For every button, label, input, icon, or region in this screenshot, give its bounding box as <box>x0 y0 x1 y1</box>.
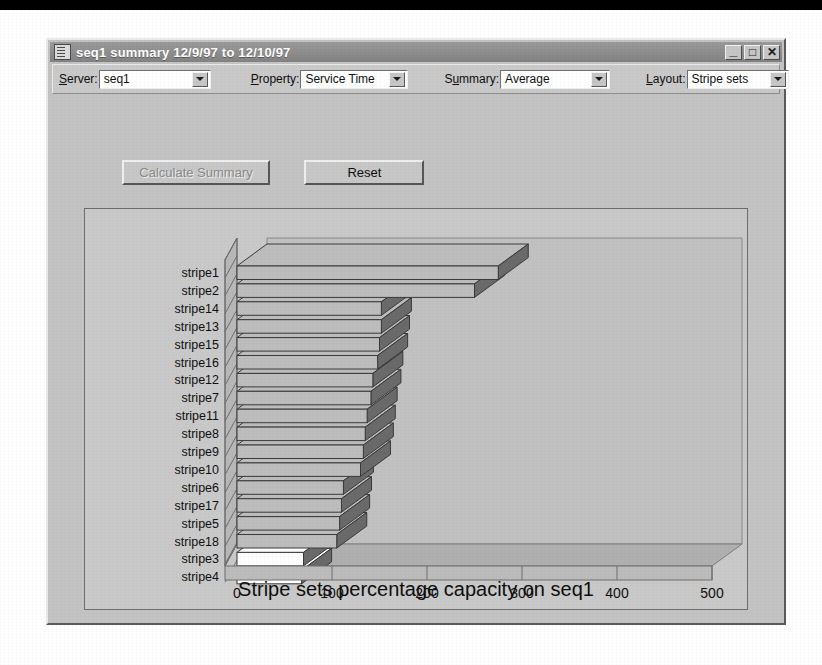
y-axis-tick-label: stripe17 <box>175 499 220 513</box>
y-axis-tick-label: stripe6 <box>181 481 219 495</box>
y-axis-tick-label: stripe9 <box>181 445 219 459</box>
y-axis-tick-label: stripe5 <box>181 517 219 531</box>
layout-label: Layout: <box>646 72 685 86</box>
close-button[interactable]: ✕ <box>763 45 780 60</box>
y-axis-tick-label: stripe2 <box>181 284 219 298</box>
window-controls: _ □ ✕ <box>725 45 780 60</box>
chevron-down-icon[interactable] <box>389 72 405 87</box>
y-axis-tick-label: stripe16 <box>175 356 220 370</box>
chevron-down-icon[interactable] <box>192 72 208 87</box>
property-label: Property: <box>251 72 300 86</box>
scan-border-top <box>0 0 822 10</box>
layout-field-group: Layout: Stripe sets <box>646 65 788 93</box>
y-axis-tick-label: stripe13 <box>175 320 220 334</box>
y-axis-tick-label: stripe18 <box>175 535 220 549</box>
summary-label: Summary: <box>444 72 499 86</box>
document-icon <box>54 44 71 60</box>
chevron-down-icon[interactable] <box>770 72 786 87</box>
y-axis-tick-label: stripe8 <box>181 427 219 441</box>
y-axis-tick-label: stripe7 <box>181 391 219 405</box>
action-button-row: Calculate Summary Reset <box>122 160 424 185</box>
layout-dropdown[interactable]: Stripe sets <box>687 70 789 89</box>
y-axis-tick-label: stripe3 <box>181 552 219 566</box>
y-axis-tick-label: stripe15 <box>175 338 220 352</box>
bar-chart: stripe1stripe2stripe14stripe13stripe15st… <box>85 209 749 611</box>
close-icon: ✕ <box>764 46 779 59</box>
y-axis-tick-label: stripe14 <box>175 302 220 316</box>
property-value: Service Time <box>301 72 387 86</box>
server-dropdown[interactable]: seq1 <box>99 70 211 89</box>
y-axis-tick-label: stripe10 <box>175 463 220 477</box>
screenshot-root: seq1 summary 12/9/97 to 12/10/97 _ □ ✕ S… <box>0 0 822 665</box>
minimize-button[interactable]: _ <box>725 45 742 60</box>
maximize-icon: □ <box>745 46 760 59</box>
filter-toolbar: Server: seq1 Property: Service Time Summ… <box>52 64 780 94</box>
y-axis-tick-label: stripe12 <box>175 373 220 387</box>
server-value: seq1 <box>100 72 190 86</box>
server-label: Server: <box>59 72 98 86</box>
property-dropdown[interactable]: Service Time <box>300 70 408 89</box>
y-axis-tick-label: stripe1 <box>181 266 219 280</box>
chart-title: Stripe sets percentage capacity on seq1 <box>85 578 747 601</box>
application-window: seq1 summary 12/9/97 to 12/10/97 _ □ ✕ S… <box>46 38 786 625</box>
calculate-summary-button[interactable]: Calculate Summary <box>122 160 270 185</box>
summary-field-group: Summary: Average <box>444 65 610 93</box>
chevron-down-icon[interactable] <box>591 72 607 87</box>
summary-value: Average <box>501 72 589 86</box>
window-title: seq1 summary 12/9/97 to 12/10/97 <box>76 45 725 60</box>
layout-value: Stripe sets <box>688 72 768 86</box>
reset-button[interactable]: Reset <box>304 160 424 185</box>
property-field-group: Property: Service Time <box>251 65 409 93</box>
minimize-icon: _ <box>726 46 741 59</box>
title-bar: seq1 summary 12/9/97 to 12/10/97 _ □ ✕ <box>50 42 782 62</box>
chart-panel: stripe1stripe2stripe14stripe13stripe15st… <box>84 208 748 610</box>
y-axis-tick-label: stripe11 <box>175 409 219 423</box>
summary-dropdown[interactable]: Average <box>500 70 610 89</box>
server-field-group: Server: seq1 <box>59 65 211 93</box>
maximize-button[interactable]: □ <box>744 45 761 60</box>
